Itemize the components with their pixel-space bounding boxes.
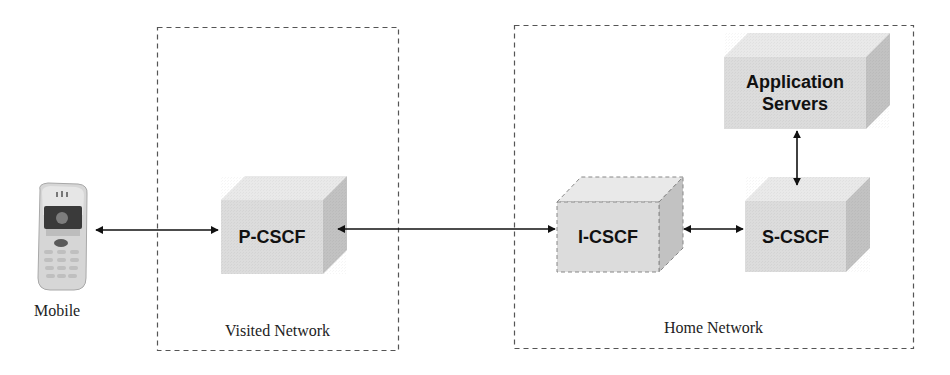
visited-network-label-text: Visited Network: [225, 322, 330, 339]
home-network-label: Home Network: [514, 319, 913, 337]
p-cscf-label: P-CSCF: [221, 200, 323, 274]
application-servers-label-line1: Application: [746, 71, 844, 93]
s-cscf-label: S-CSCF: [745, 201, 846, 272]
i-cscf-label: I-CSCF: [557, 202, 659, 272]
visited-network-label: Visited Network: [157, 322, 398, 340]
p-cscf-label-text: P-CSCF: [239, 226, 306, 248]
application-servers-label-line2: Servers: [762, 93, 828, 115]
mobile-label: Mobile: [34, 302, 80, 320]
ims-architecture-diagram: P-CSCF I-CSCF S-CSCF Application Servers…: [0, 0, 950, 375]
s-cscf-label-text: S-CSCF: [762, 226, 829, 248]
home-network-label-text: Home Network: [664, 319, 763, 336]
mobile-label-text: Mobile: [34, 302, 80, 319]
i-cscf-label-text: I-CSCF: [578, 226, 638, 248]
application-servers-label: Application Servers: [724, 57, 866, 129]
mobile-phone-icon: [38, 183, 87, 290]
